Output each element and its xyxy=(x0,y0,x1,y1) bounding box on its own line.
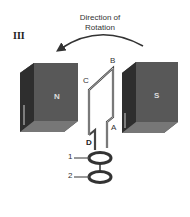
magnet-south xyxy=(122,62,178,133)
pole-label-south: S xyxy=(154,91,159,100)
ring-label-1: 1 xyxy=(68,152,72,161)
corner-label-d: D xyxy=(86,138,92,147)
ring-label-2: 2 xyxy=(68,171,72,180)
corner-label-a: A xyxy=(111,123,116,132)
rotation-arrow-icon xyxy=(60,35,143,49)
pole-label-north: N xyxy=(54,92,60,101)
generator-diagram xyxy=(0,0,190,217)
magnet-north xyxy=(20,63,78,132)
slip-rings xyxy=(89,153,111,183)
corner-label-b: B xyxy=(110,56,115,65)
corner-label-c: C xyxy=(83,76,89,85)
coil xyxy=(89,68,113,150)
